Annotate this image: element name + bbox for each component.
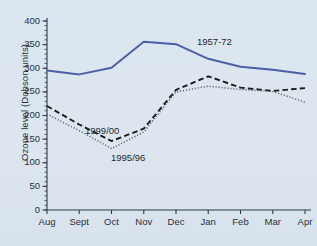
x-tick-label: Apr xyxy=(285,216,317,227)
y-tick-label: 350 xyxy=(6,38,40,49)
chart-figure: Ozone level (Dobson units) 0501001502002… xyxy=(0,0,317,246)
y-tick-label: 400 xyxy=(6,15,40,26)
y-tick-label: 100 xyxy=(6,156,40,167)
y-tick-label: 150 xyxy=(6,133,40,144)
series-label-1999-00: 1999/00 xyxy=(85,125,119,136)
axis-group xyxy=(43,18,312,214)
series-label-1995-96: 1995/96 xyxy=(111,152,145,163)
y-tick-label: 300 xyxy=(6,62,40,73)
y-tick-label: 250 xyxy=(6,85,40,96)
y-tick-label: 200 xyxy=(6,109,40,120)
series-line-1995-96 xyxy=(47,86,305,148)
line-chart-plot xyxy=(0,0,317,246)
series-label-1957-72: 1957-72 xyxy=(197,36,232,47)
y-tick-label: 0 xyxy=(6,204,40,215)
series-line-1957-72 xyxy=(47,42,305,75)
y-tick-label: 50 xyxy=(6,180,40,191)
